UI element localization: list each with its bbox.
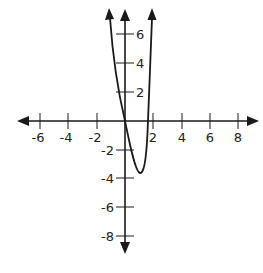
x-axis-right-arrow-icon	[247, 116, 259, 126]
y-tick-label: 2	[136, 85, 144, 100]
y-tick-label: 6	[136, 27, 144, 42]
x-tick-label: -6	[32, 130, 45, 145]
x-tick-label: -4	[60, 130, 73, 145]
y-tick-label: -4	[101, 171, 114, 186]
x-tick-label: 6	[206, 130, 214, 145]
x-tick-label: -2	[89, 130, 102, 145]
y-tick-label: -8	[101, 229, 114, 244]
curve-left-arrow-icon	[105, 8, 114, 20]
x-tick-label: 8	[234, 130, 242, 145]
y-axis-up-arrow-icon	[120, 9, 130, 21]
y-tick-label: 4	[136, 56, 144, 71]
x-axis-left-arrow-icon	[17, 116, 29, 126]
x-tick-label: 2	[149, 130, 157, 145]
y-tick-label: -6	[101, 200, 114, 215]
x-tick-label: 4	[178, 130, 186, 145]
y-axis-down-arrow-icon	[120, 242, 130, 254]
curve-right-arrow-icon	[148, 8, 157, 20]
y-tick-label: -2	[101, 143, 114, 158]
coordinate-plane: -6 -4 -2 2 4 6 8 6 4 2 -2 -4 -6 -8	[0, 0, 263, 273]
